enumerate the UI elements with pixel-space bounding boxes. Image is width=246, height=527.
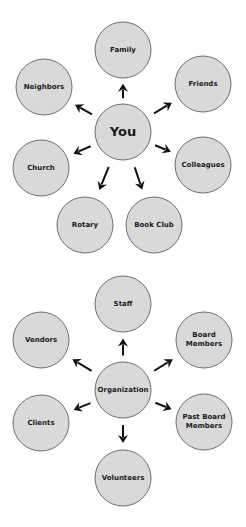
arrow-to-neighbors: [75, 104, 92, 114]
node-label: You: [109, 124, 136, 139]
arrow-to-clients: [74, 402, 91, 411]
node-label: Board: [192, 331, 215, 339]
arrow-to-book-club: [135, 167, 145, 189]
node-past-board-members: Past BoardMembers: [176, 394, 232, 450]
node-label: Members: [186, 340, 222, 348]
node-label: Volunteers: [102, 474, 145, 482]
arrow-to-family: [118, 84, 128, 99]
node-staff: Staff: [95, 276, 151, 332]
arrow-to-friends: [154, 102, 172, 113]
node-book-club: Book Club: [126, 197, 182, 253]
arrow-to-volunteers: [118, 425, 128, 443]
node-colleagues: Colleagues: [175, 137, 231, 193]
node-label: Vendors: [25, 336, 57, 344]
node-family: Family: [95, 22, 151, 78]
node-church: Church: [13, 140, 69, 196]
node-label: Organization: [98, 386, 149, 394]
center-node-organization: Organization: [95, 362, 151, 418]
node-label: Rotary: [72, 221, 99, 229]
node-neighbors: Neighbors: [16, 59, 72, 115]
node-volunteers: Volunteers: [95, 450, 151, 506]
node-label: Book Club: [134, 221, 174, 229]
relationship-diagrams: FamilyFriendsColleaguesBook ClubRotaryCh…: [0, 0, 246, 527]
node-label: Neighbors: [24, 83, 64, 91]
node-clients: Clients: [13, 395, 69, 451]
node-label: Family: [110, 46, 136, 54]
arrow-to-board-members: [154, 359, 173, 371]
node-label: Clients: [27, 419, 54, 427]
node-label: Church: [27, 164, 55, 172]
node-vendors: Vendors: [13, 312, 69, 368]
node-label: Members: [186, 422, 222, 430]
node-rotary: Rotary: [57, 197, 113, 253]
arrow-to-rotary: [98, 167, 109, 190]
node-label: Colleagues: [181, 161, 224, 169]
node-friends: Friends: [175, 56, 231, 112]
node-label: Past Board: [183, 413, 226, 421]
arrow-to-church: [73, 146, 90, 155]
arrow-to-vendors: [72, 359, 91, 371]
node-label: Friends: [188, 80, 217, 88]
arrow-to-past-board-members: [155, 402, 171, 411]
arrow-to-staff: [118, 339, 128, 356]
center-node-you: You: [95, 104, 151, 160]
arrow-to-colleagues: [155, 144, 171, 153]
node-board-members: BoardMembers: [176, 312, 232, 368]
node-label: Staff: [114, 300, 133, 308]
